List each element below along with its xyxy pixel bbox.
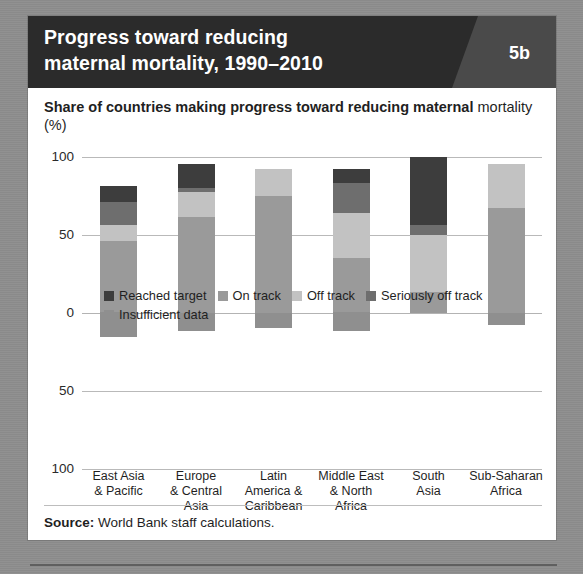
legend-swatch bbox=[292, 291, 302, 301]
bar-segment bbox=[488, 164, 525, 208]
legend-item[interactable]: Insufficient data bbox=[104, 307, 208, 322]
gridline-50-neg bbox=[82, 391, 542, 392]
y-axis-tick-label: 100 bbox=[28, 149, 74, 164]
legend-swatch bbox=[104, 291, 114, 301]
bar-segment bbox=[178, 164, 215, 187]
bar-segment bbox=[100, 186, 137, 202]
source-label: Source: bbox=[44, 515, 94, 530]
y-axis-tick-label: 50 bbox=[28, 383, 74, 398]
chart-plot-area: 10050050100East Asia & PacificEurope & C… bbox=[28, 139, 556, 521]
legend-label: Seriously off track bbox=[381, 288, 482, 303]
source-divider bbox=[44, 505, 542, 506]
bar-segment bbox=[100, 202, 137, 225]
header-badge-panel bbox=[452, 16, 556, 88]
page-title: Progress toward reducing maternal mortal… bbox=[44, 25, 446, 77]
bar-segment bbox=[100, 225, 137, 241]
chart-legend: Reached targetOn trackOff trackSeriously… bbox=[104, 288, 546, 326]
bar-segment bbox=[178, 192, 215, 217]
gridline-100 bbox=[82, 157, 542, 158]
legend-label: Reached target bbox=[119, 288, 207, 303]
y-axis-tick-label: 0 bbox=[28, 305, 74, 320]
legend-item[interactable]: On track bbox=[218, 288, 281, 303]
figure-panel: Progress toward reducing maternal mortal… bbox=[28, 16, 556, 540]
page-bottom-rule bbox=[30, 564, 557, 566]
legend-label: On track bbox=[233, 288, 281, 303]
bar-segment bbox=[410, 157, 447, 226]
bar-segment bbox=[333, 183, 370, 213]
y-axis-tick-label: 100 bbox=[28, 461, 74, 476]
figure-number-badge: 5b bbox=[509, 43, 530, 64]
legend-item[interactable]: Seriously off track bbox=[366, 288, 482, 303]
legend-item[interactable]: Off track bbox=[292, 288, 355, 303]
bar-segment bbox=[333, 213, 370, 258]
figure-header: Progress toward reducing maternal mortal… bbox=[28, 16, 556, 88]
legend-swatch bbox=[366, 291, 376, 301]
legend-item[interactable]: Reached target bbox=[104, 288, 207, 303]
bar-segment bbox=[410, 225, 447, 234]
legend-label: Off track bbox=[307, 288, 355, 303]
chart-subtitle: Share of countries making progress towar… bbox=[28, 88, 556, 135]
source-note: Source: World Bank staff calculations. bbox=[44, 515, 275, 530]
y-axis-tick-label: 50 bbox=[28, 227, 74, 242]
x-axis-category-label: Sub-Saharan Africa bbox=[460, 469, 552, 500]
legend-swatch bbox=[218, 291, 228, 301]
source-text: World Bank staff calculations. bbox=[94, 515, 274, 530]
gridline-50 bbox=[82, 235, 542, 236]
legend-swatch bbox=[104, 310, 114, 320]
bar-segment bbox=[410, 235, 447, 293]
chart-subtitle-text: Share of countries making progress towar… bbox=[44, 99, 478, 115]
bar-segment bbox=[333, 169, 370, 183]
bar-segment bbox=[255, 169, 292, 196]
legend-label: Insufficient data bbox=[119, 307, 208, 322]
